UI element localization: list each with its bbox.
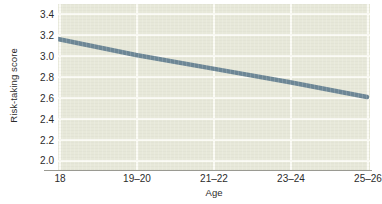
x-tick-label: 21–22 <box>200 173 228 184</box>
x-tick-label: 23–24 <box>277 173 305 184</box>
x-axis-line <box>44 170 372 171</box>
y-tick-label: 3.2 <box>40 30 54 41</box>
plot-area <box>58 4 370 170</box>
y-axis-label-text: Risk-taking score <box>8 48 19 123</box>
y-tick-label: 2.0 <box>40 155 54 166</box>
y-tick-label: 3.0 <box>40 51 54 62</box>
series-line-risk-taking-score <box>58 4 370 170</box>
y-axis-tick-labels: 3.4 3.2 3.0 2.8 2.6 2.4 2.2 2.0 <box>26 0 58 170</box>
y-tick-label: 3.4 <box>40 9 54 20</box>
y-tick-label: 2.8 <box>40 72 54 83</box>
x-tick-label: 18 <box>54 173 65 184</box>
y-axis-label: Risk-taking score <box>0 0 26 170</box>
x-tick-label: 19–20 <box>123 173 151 184</box>
x-axis-tick-labels: 18 19–20 21–22 23–24 25–26 <box>58 173 370 187</box>
x-tick-label: 25–26 <box>354 173 382 184</box>
y-tick-label: 2.6 <box>40 93 54 104</box>
y-tick-label: 2.2 <box>40 135 54 146</box>
y-tick-label: 2.4 <box>40 114 54 125</box>
x-axis-label: Age <box>58 187 370 198</box>
